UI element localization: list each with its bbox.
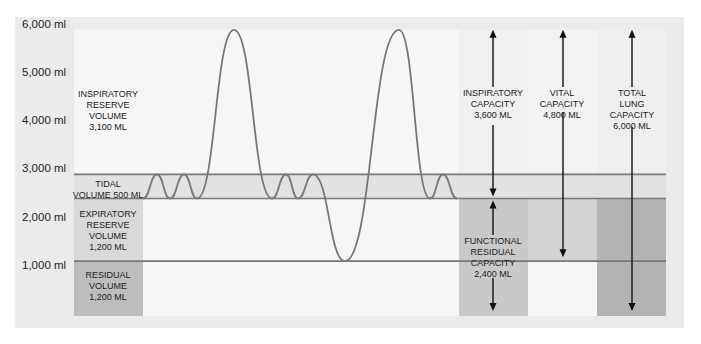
tv-label-line: VOLUME 500 ml — [68, 190, 148, 201]
irv-label-line: INSPIRATORY — [68, 89, 148, 100]
vc-label: VITALCAPACITY4,800 ml — [527, 88, 597, 121]
rv-label: RESIDUALVOLUME1,200 ml — [72, 270, 144, 303]
ic-label-line: 3,600 ml — [455, 110, 531, 121]
tlc-label-line: LUNG — [597, 99, 667, 110]
rv-label-line: 1,200 ml — [72, 292, 144, 303]
irv-label-line: 3,100 ml — [68, 122, 148, 133]
irv-label-line: VOLUME — [68, 111, 148, 122]
frc-label: FUNCTIONALRESIDUALCAPACITY2,400 ml — [455, 236, 531, 280]
rv-label-line: RESIDUAL — [72, 270, 144, 281]
ic-label-line: CAPACITY — [455, 99, 531, 110]
frc-label-line: CAPACITY — [455, 258, 531, 269]
vc-label-line: CAPACITY — [527, 99, 597, 110]
y-tick-label: 1,000 ml — [22, 259, 66, 271]
y-tick-label: 3,000 ml — [22, 162, 66, 174]
tv-label-line: TIDAL — [68, 179, 148, 190]
vc-label-line: 4,800 ml — [527, 110, 597, 121]
erv-label-line: 1,200 ml — [72, 242, 144, 253]
irv-label-line: RESERVE — [68, 100, 148, 111]
y-tick-label: 2,000 ml — [22, 211, 66, 223]
frc-label-line: RESIDUAL — [455, 247, 531, 258]
y-tick-label: 5,000 ml — [22, 66, 66, 78]
ic-label-line: INSPIRATORY — [455, 88, 531, 99]
tlc-label-line: 6,000 ml — [597, 121, 667, 132]
y-tick-label: 6,000 ml — [22, 18, 66, 30]
erv-label-line: EXPIRATORY — [72, 209, 144, 220]
frc-label-line: 2,400 ml — [455, 269, 531, 280]
irv-label: INSPIRATORYRESERVEVOLUME3,100 ml — [68, 89, 148, 133]
tlc-label: TOTALLUNGCAPACITY6,000 ml — [597, 88, 667, 132]
tv-label: TIDALVOLUME 500 ml — [68, 179, 148, 201]
ic-label: INSPIRATORYCAPACITY3,600 ml — [455, 88, 531, 121]
y-tick-label: 4,000 ml — [22, 114, 66, 126]
erv-label-line: RESERVE — [72, 220, 144, 231]
frc-label-line: FUNCTIONAL — [455, 236, 531, 247]
erv-label: EXPIRATORYRESERVEVOLUME1,200 ml — [72, 209, 144, 253]
vc-label-line: VITAL — [527, 88, 597, 99]
erv-label-line: VOLUME — [72, 231, 144, 242]
tlc-label-line: CAPACITY — [597, 110, 667, 121]
tlc-label-line: TOTAL — [597, 88, 667, 99]
rv-label-line: VOLUME — [72, 281, 144, 292]
